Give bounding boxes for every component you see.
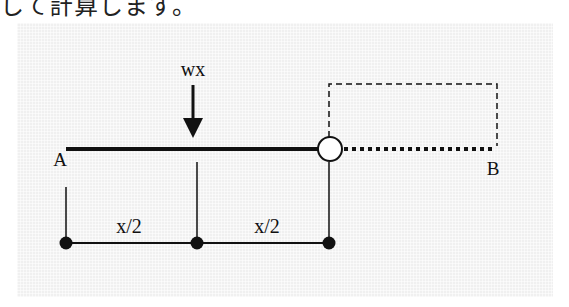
hinge-icon [318,137,342,161]
point-a-label: A [53,149,67,170]
dim-dot-mid-icon [191,237,204,250]
load-label: wx [181,58,205,80]
dashed-load-box [329,84,497,146]
dim-dot-right-icon [323,237,336,250]
dim-left-label: x/2 [116,215,142,237]
beam-diagram: wx A B x/2 x/2 [0,0,569,307]
dim-right-label: x/2 [254,215,280,237]
dim-dot-left-icon [60,237,73,250]
load-arrow-head-icon [183,118,203,138]
point-b-label: B [487,158,500,179]
